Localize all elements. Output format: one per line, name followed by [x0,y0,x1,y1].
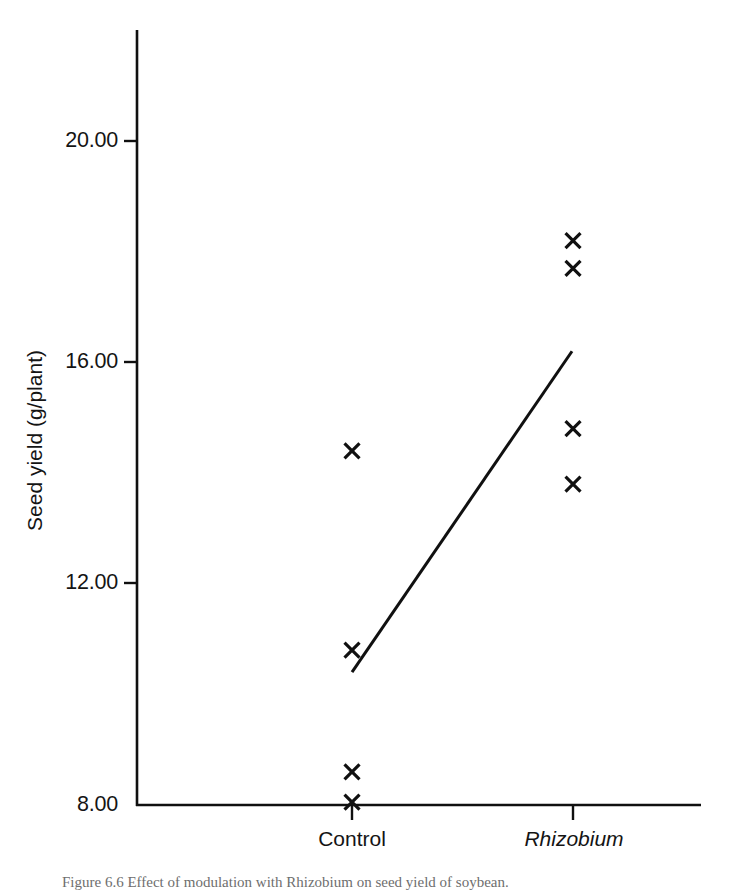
regression-line [352,351,572,672]
data-point-control-2 [345,764,360,779]
data-point-rhizobium-2 [566,421,581,436]
figure-caption-text: Effect of modulation with Rhizobium on s… [127,874,508,890]
figure-caption-prefix: Figure 6.6 [62,874,124,890]
data-point-rhizobium-0 [566,233,581,248]
y-tick-marks [124,141,137,583]
figure-root: 20.00 16.00 12.00 8.00 Control Rhizobium… [0,0,734,894]
y-tick-label-8: 8.00 [6,794,118,816]
data-point-markers [345,233,581,810]
x-tick-marks [352,805,573,820]
y-axis-title-text: Seed yield (g/plant) [24,350,45,531]
data-point-rhizobium-3 [566,477,581,492]
data-point-control-0 [345,443,360,458]
data-point-rhizobium-1 [566,261,581,276]
y-axis-title: Seed yield (g/plant) [12,240,56,640]
x-tick-label-control: Control [318,828,386,849]
plot-area: 20.00 16.00 12.00 8.00 Control Rhizobium… [0,0,734,860]
x-tick-label-rhizobium: Rhizobium [524,828,623,849]
data-point-control-1 [345,643,360,658]
figure-caption: Figure 6.6 Effect of modulation with Rhi… [62,872,722,894]
y-tick-label-20: 20.00 [6,130,118,152]
